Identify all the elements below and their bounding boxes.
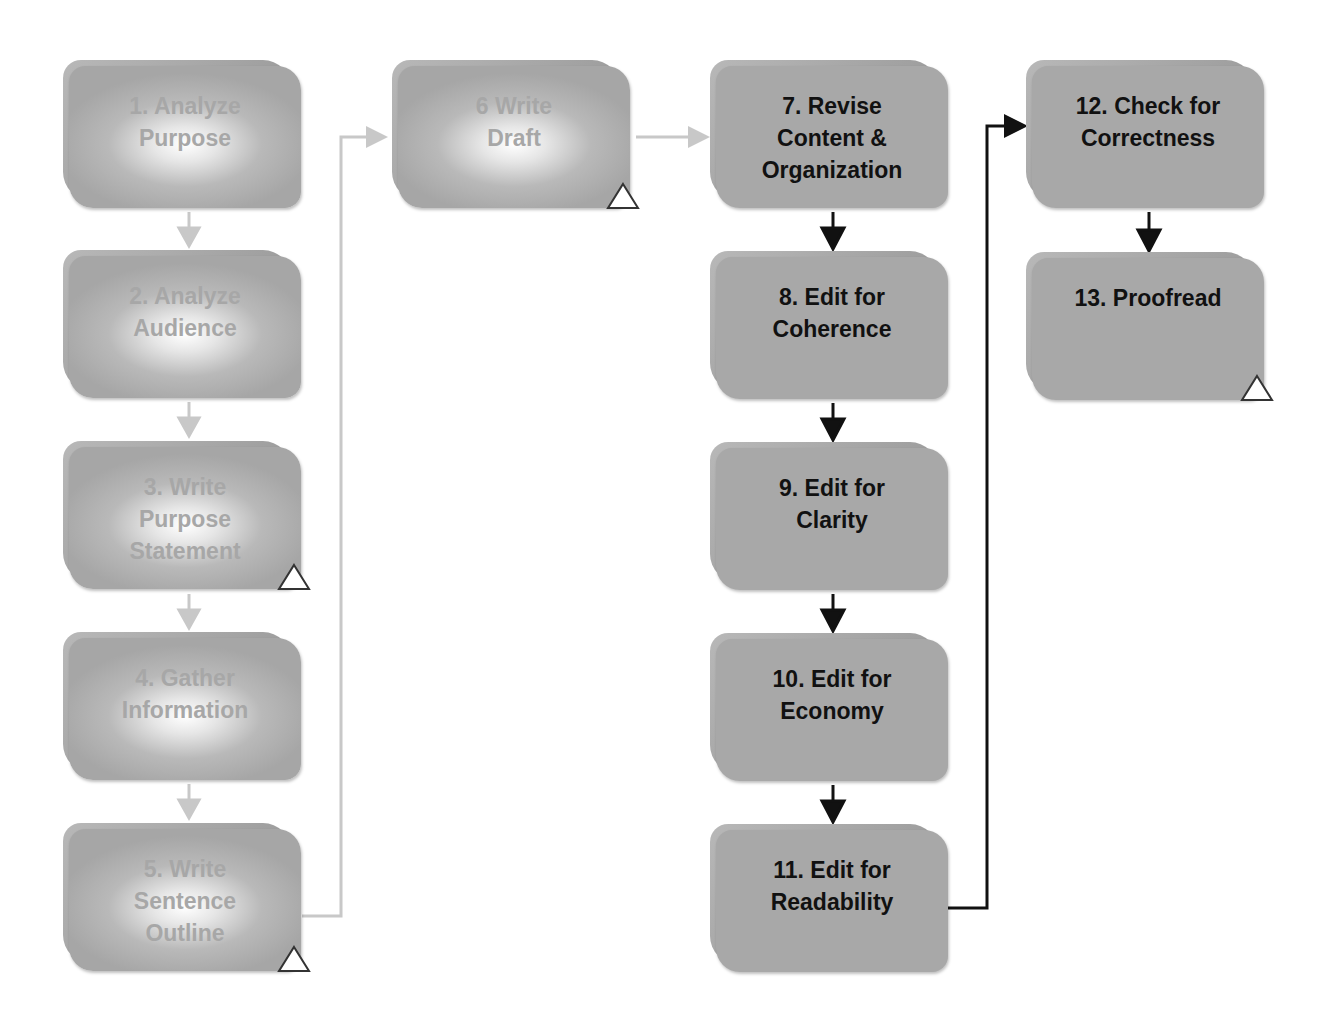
- edge-11-12: [948, 114, 1028, 908]
- edge-7-8: [822, 212, 844, 249]
- edge-4-5: [179, 784, 199, 818]
- step-11-box[interactable]: 11. Edit for Readability: [710, 824, 948, 972]
- edge-8-9: [822, 403, 844, 440]
- step-8-label: 8. Edit for Coherence: [773, 281, 892, 345]
- step-3-box[interactable]: 3. Write Purpose Statement: [63, 441, 301, 589]
- step-7-box[interactable]: 7. Revise Content & Organization: [710, 60, 948, 208]
- step-1-label: 1. Analyze Purpose: [129, 90, 241, 154]
- step-10-box[interactable]: 10. Edit for Economy: [710, 633, 948, 781]
- step-6-box[interactable]: 6 Write Draft: [392, 60, 630, 208]
- step-2-label: 2. Analyze Audience: [129, 280, 241, 344]
- step-4-label: 4. Gather Information: [122, 662, 249, 726]
- step-3-label: 3. Write Purpose Statement: [129, 471, 240, 567]
- step-1-box[interactable]: 1. Analyze Purpose: [63, 60, 301, 208]
- edge-9-10: [822, 594, 844, 631]
- step-12-box[interactable]: 12. Check for Correctness: [1026, 60, 1264, 208]
- step-10-label: 10. Edit for Economy: [773, 663, 892, 727]
- step-12-label: 12. Check for Correctness: [1076, 90, 1220, 154]
- edge-3-4: [179, 594, 199, 628]
- step-7-label: 7. Revise Content & Organization: [762, 90, 903, 186]
- step-4-box[interactable]: 4. Gather Information: [63, 632, 301, 780]
- step-13-box[interactable]: 13. Proofread: [1026, 252, 1264, 400]
- step-11-label: 11. Edit for Readability: [771, 854, 894, 918]
- edge-2-3: [179, 402, 199, 436]
- step-9-box[interactable]: 9. Edit for Clarity: [710, 442, 948, 590]
- edge-10-11: [822, 785, 844, 822]
- edge-5-6: [302, 126, 388, 916]
- flowchart-canvas: 1. Analyze Purpose 2. Analyze Audience 3…: [0, 0, 1324, 1027]
- step-13-label: 13. Proofread: [1075, 282, 1222, 314]
- step-8-box[interactable]: 8. Edit for Coherence: [710, 251, 948, 399]
- step-5-label: 5. Write Sentence Outline: [134, 853, 236, 949]
- step-5-box[interactable]: 5. Write Sentence Outline: [63, 823, 301, 971]
- edge-6-7: [636, 126, 710, 148]
- step-6-label: 6 Write Draft: [476, 90, 552, 154]
- edge-12-13: [1138, 212, 1160, 251]
- step-9-label: 9. Edit for Clarity: [779, 472, 885, 536]
- edge-1-2: [179, 212, 199, 246]
- step-2-box[interactable]: 2. Analyze Audience: [63, 250, 301, 398]
